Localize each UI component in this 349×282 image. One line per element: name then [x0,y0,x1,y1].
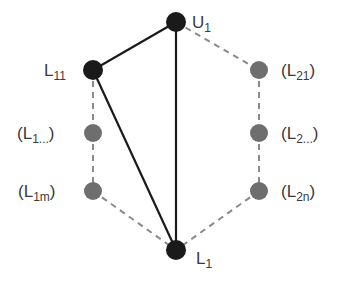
label-l2dots: (L2...) [281,124,319,146]
label-l21: (L21) [281,61,315,83]
edge-u1-l21 [176,22,259,70]
label-l1m: (L1m) [18,182,55,204]
node-l21[interactable] [250,61,268,79]
node-l1m[interactable] [84,182,102,200]
edge-u1-l11 [93,22,176,70]
label-l2n: (L2n) [281,182,315,204]
label-l1: L1 [196,249,212,271]
hexagon-graph-diagram: U1 L11 (L1...) (L1m) L1 (L21) (L2...) (L… [0,0,349,282]
node-l11[interactable] [83,60,103,80]
edge-l2n-l1 [176,191,259,250]
label-l1dots: (L1...) [17,124,55,146]
label-u1: U1 [192,13,211,35]
node-l1dots[interactable] [84,124,102,142]
edge-l11-l1 [93,70,176,250]
node-u1[interactable] [166,12,186,32]
label-l11: L11 [44,61,66,83]
node-l2dots[interactable] [250,124,268,142]
node-l2n[interactable] [250,182,268,200]
node-l1[interactable] [166,240,186,260]
solid-edges [93,22,176,250]
